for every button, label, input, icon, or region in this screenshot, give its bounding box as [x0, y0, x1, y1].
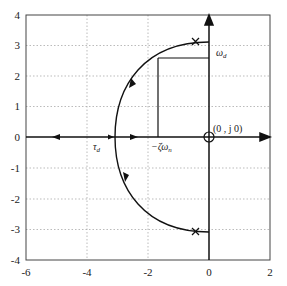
zeta-omega-n-label: −ζωn: [151, 141, 172, 154]
axes: [26, 15, 270, 260]
arrow-right-icon: [260, 133, 270, 141]
svg-text:-2: -2: [11, 193, 20, 205]
arrow-up-icon: [205, 15, 213, 25]
svg-text:-3: -3: [11, 223, 21, 235]
x-tick-labels: -6 -4 -2 0 2: [21, 266, 272, 278]
tau-d-label: τd: [93, 141, 101, 154]
origin-label: (0 , j 0): [213, 123, 242, 135]
root-locus-diagram: 4 3 2 1 0 -1 -2 -3 -4 -6 -4 -2 0 2: [0, 0, 287, 286]
svg-text:4: 4: [15, 9, 21, 21]
svg-text:-1: -1: [11, 162, 20, 174]
svg-text:-2: -2: [143, 266, 152, 278]
arc-arrows: [123, 78, 136, 182]
y-tick-labels: 4 3 2 1 0 -1 -2 -3 -4: [11, 9, 21, 266]
svg-text:0: 0: [15, 131, 21, 143]
svg-text:-4: -4: [11, 254, 21, 266]
svg-text:1: 1: [15, 100, 21, 112]
svg-text:0: 0: [206, 266, 212, 278]
svg-text:3: 3: [15, 39, 21, 51]
omega-d-label: ωd: [216, 47, 227, 60]
svg-text:-4: -4: [82, 266, 92, 278]
svg-text:-6: -6: [21, 266, 31, 278]
svg-text:2: 2: [15, 70, 21, 82]
guide-lines: [158, 58, 209, 137]
svg-text:2: 2: [267, 266, 273, 278]
